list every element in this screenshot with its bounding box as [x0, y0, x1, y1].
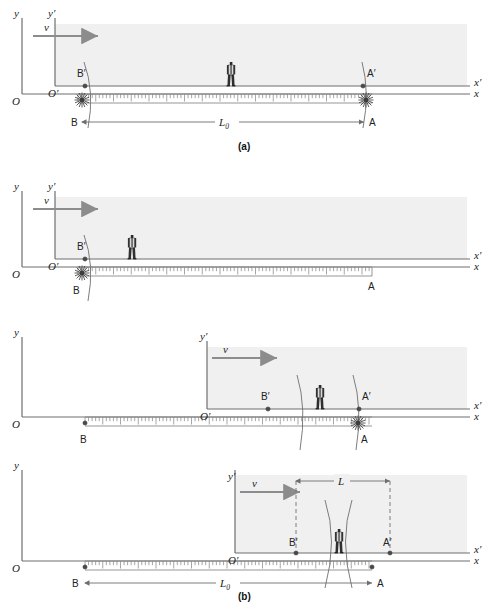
ruler-a-bottom: [78, 267, 372, 275]
point-a-prime-label-b-bottom: A′: [383, 537, 392, 548]
point-b-prime-marker-a-top: [83, 84, 87, 88]
burst-a-a-top: [359, 93, 374, 108]
point-b-prime-label-a-top: B′: [77, 68, 86, 79]
panel-b-bottom: v L B′ A′ L0 B A y y′ x x′ O O′ (b): [12, 459, 482, 602]
point-b-label-b-bottom: B: [72, 578, 79, 589]
point-b-prime-marker-b-top: [266, 407, 270, 411]
x-prime-axis-label-b-top: x′: [473, 399, 482, 411]
point-a-prime-marker-b-bottom: [388, 551, 392, 555]
y-prime-axis-label-b-bottom: y′: [227, 470, 236, 482]
point-b-label-a-bottom: B: [73, 285, 80, 296]
moving-frame-box-a-bottom: [55, 197, 467, 259]
velocity-label-a-top: v: [44, 21, 49, 33]
x-axis-label-a-bottom: x: [473, 260, 479, 272]
panel-a-bottom: v B′ B A y y′ x x′ O O′: [12, 180, 482, 301]
y-prime-axis-label-a-top: y′: [47, 7, 56, 19]
origin-label-b-top: O: [12, 418, 20, 430]
y-axis-label-b-bottom: y: [13, 459, 19, 471]
point-a-prime-marker-b-top: [357, 407, 361, 411]
point-b-marker-b-bottom: [83, 565, 87, 569]
y-axis-label-b-top: y: [13, 326, 19, 338]
y-axis-label-a-top: y: [13, 7, 19, 19]
point-a-prime-marker-a-top: [361, 84, 365, 88]
physics-figure-length-contraction: v B′ A′ L0 B A y y′ x x′ O O′ (a): [0, 0, 491, 603]
point-b-label-b-top: B: [80, 434, 87, 445]
x-axis-label-b-bottom: x: [473, 554, 479, 566]
moving-frame-box-b-top: [207, 347, 467, 409]
panel-a-top: v B′ A′ L0 B A y y′ x x′ O O′ (a): [12, 7, 482, 152]
y-prime-axis-label-a-bottom: y′: [47, 180, 56, 192]
panel-b-top: v B′ A′ B A y y′ x x′ O O′: [12, 326, 482, 450]
point-b-prime-label-a-bottom: B′: [77, 241, 86, 252]
origin-prime-label-b-bottom: O′: [228, 554, 239, 566]
point-b-prime-label-b-top: B′: [261, 391, 270, 402]
x-prime-axis-label-a-top: x′: [473, 76, 482, 88]
y-axis-label-a-bottom: y: [13, 180, 19, 192]
panel-tag-b: (b): [238, 591, 251, 602]
point-a-label-a-top: A: [369, 117, 376, 128]
point-a-prime-label-a-top: A′: [367, 68, 376, 79]
burst-b-a-bottom: [75, 266, 90, 281]
velocity-label-b-bottom: v: [252, 477, 257, 489]
origin-label-a-bottom: O: [12, 268, 20, 280]
ruler-b-top: [85, 417, 372, 425]
burst-a-b-top: [351, 416, 366, 431]
origin-label-b-bottom: O: [12, 562, 20, 574]
y-prime-axis-label-b-top: y′: [199, 330, 208, 342]
ruler-a-top: [78, 94, 372, 102]
x-prime-axis-label-b-bottom: x′: [473, 543, 482, 555]
panel-tag-a: (a): [238, 141, 250, 152]
point-a-prime-label-b-top: A′: [362, 391, 371, 402]
point-a-label-a-bottom: A: [368, 281, 375, 292]
dim-label-l-b-bottom: L: [337, 475, 344, 487]
origin-prime-label-a-bottom: O′: [48, 260, 59, 272]
moving-frame-box-b-bottom: [235, 475, 467, 553]
burst-b-a-top: [75, 93, 90, 108]
point-b-label-a-top: B: [71, 117, 78, 128]
origin-prime-label-a-top: O′: [48, 87, 59, 99]
x-prime-axis-label-a-bottom: x′: [473, 249, 482, 261]
point-b-prime-marker-a-bottom: [83, 257, 87, 261]
origin-label-a-top: O: [12, 95, 20, 107]
x-axis-label-b-top: x: [473, 410, 479, 422]
velocity-label-b-top: v: [223, 343, 228, 355]
origin-prime-label-b-top: O′: [200, 410, 211, 422]
point-a-label-b-top: A: [361, 434, 368, 445]
moving-frame-box-a-top: [55, 24, 467, 86]
point-a-marker-b-bottom: [370, 565, 374, 569]
point-a-label-b-bottom: A: [377, 578, 384, 589]
point-b-prime-label-b-bottom: B′: [289, 537, 298, 548]
velocity-label-a-bottom: v: [44, 194, 49, 206]
point-b-marker-b-top: [83, 421, 87, 425]
point-b-prime-marker-b-bottom: [294, 551, 298, 555]
x-axis-label-a-top: x: [473, 87, 479, 99]
